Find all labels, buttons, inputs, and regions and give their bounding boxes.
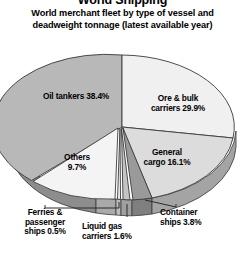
slice-label-others-line-1: Others — [49, 152, 105, 162]
callout-label-ferries-passenger-ships: Ferries & passenger ships 0.5% — [12, 208, 78, 237]
pie-slices — [0, 54, 234, 200]
slice-label-oil-tankers: Oil tankers 38.4% — [24, 91, 128, 101]
callout-label-container-line-2: ships 3.8% — [160, 218, 240, 228]
slice-label-general-cargo: General cargo 16.1% — [128, 147, 206, 167]
pie-chart-graphic — [0, 32, 245, 217]
slice-label-ore-bulk-carriers: Ore & bulk carriers 29.9% — [136, 93, 220, 113]
callout-label-ferries-line-3: ships 0.5% — [12, 227, 78, 237]
slice-label-others-line-2: 9.7% — [49, 162, 105, 172]
callout-label-liquid-gas-line-2: carriers 1.6% — [82, 232, 154, 242]
chart-subtitle-line-2: deadweight tonnage (latest available yea… — [0, 20, 245, 31]
slice-label-general-cargo-line-1: General — [128, 147, 206, 157]
callout-label-liquid-gas-carriers: Liquid gas carriers 1.6% — [82, 222, 154, 241]
chart-figure: World Shipping World merchant fleet by t… — [0, 0, 245, 254]
slice-label-ore-bulk-line-2: carriers 29.9% — [136, 103, 220, 113]
slice-label-oil-tankers-text: Oil tankers 38.4% — [43, 91, 109, 101]
chart-title-block: World Shipping World merchant fleet by t… — [0, 0, 245, 32]
slice-label-general-cargo-line-2: cargo 16.1% — [128, 157, 206, 167]
callout-label-container-ships: Container ships 3.8% — [160, 208, 240, 227]
page-title: World Shipping — [0, 0, 245, 7]
slice-label-others: Others 9.7% — [49, 152, 105, 172]
chart-subtitle-line-1: World merchant fleet by type of vessel a… — [0, 8, 245, 19]
slice-label-ore-bulk-line-1: Ore & bulk — [136, 93, 220, 103]
